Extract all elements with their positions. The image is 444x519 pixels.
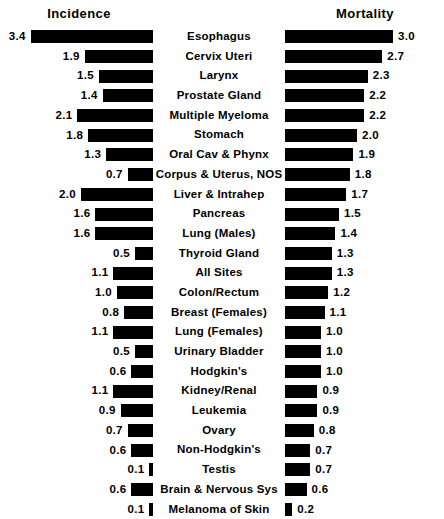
mortality-bar — [285, 168, 350, 181]
mortality-bar — [285, 30, 393, 43]
mortality-cell: 1.2 — [285, 283, 444, 303]
incidence-bar — [121, 404, 153, 417]
chart-header-row: Incidence Mortality — [0, 6, 444, 26]
category-label: Colon/Rectum — [155, 283, 283, 303]
category-label: Lung (Males) — [155, 224, 283, 244]
chart-row: 1.0Colon/Rectum1.2 — [0, 283, 444, 303]
mortality-value-label: 2.2 — [369, 90, 386, 102]
incidence-cell: 0.9 — [0, 401, 153, 421]
category-label: Non-Hodgkin's — [155, 440, 283, 460]
chart-row: 1.1All Sites1.3 — [0, 263, 444, 283]
incidence-value-label: 1.6 — [74, 228, 91, 240]
incidence-value-label: 1.1 — [92, 267, 109, 279]
incidence-cell: 1.8 — [0, 125, 153, 145]
category-label: All Sites — [155, 263, 283, 283]
mortality-cell: 2.2 — [285, 86, 444, 106]
mortality-value-label: 2.3 — [373, 70, 390, 82]
incidence-cell: 1.6 — [0, 224, 153, 244]
chart-row: 1.4Prostate Gland2.2 — [0, 86, 444, 106]
mortality-value-label: 1.0 — [326, 366, 343, 378]
incidence-bar — [149, 463, 153, 476]
mortality-cell: 2.3 — [285, 66, 444, 86]
chart-row: 2.1Multiple Myeloma2.2 — [0, 106, 444, 126]
chart-row: 1.9Cervix Uteri2.7 — [0, 47, 444, 67]
mortality-bar — [285, 306, 325, 319]
incidence-value-label: 1.1 — [92, 385, 109, 397]
category-label: Brain & Nervous Sys — [155, 480, 283, 500]
incidence-cell: 2.0 — [0, 185, 153, 205]
chart-row: 0.7Corpus & Uterus, NOS1.8 — [0, 165, 444, 185]
mortality-value-label: 1.8 — [355, 169, 372, 181]
incidence-bar — [135, 345, 153, 358]
mortality-value-label: 1.4 — [340, 228, 357, 240]
incidence-value-label: 0.6 — [110, 366, 127, 378]
mortality-bar — [285, 129, 357, 142]
incidence-value-label: 0.6 — [110, 484, 127, 496]
mortality-bar — [285, 326, 321, 339]
category-label: Stomach — [155, 125, 283, 145]
mortality-value-label: 0.8 — [319, 425, 336, 437]
mortality-bar — [285, 503, 292, 516]
incidence-value-label: 0.5 — [113, 248, 130, 260]
mortality-bar — [285, 227, 335, 240]
incidence-value-label: 0.9 — [99, 405, 116, 417]
incidence-bar — [88, 129, 153, 142]
mortality-cell: 1.0 — [285, 342, 444, 362]
incidence-value-label: 0.7 — [106, 425, 123, 437]
incidence-bar — [103, 89, 153, 102]
category-label: Oral Cav & Phynx — [155, 145, 283, 165]
incidence-bar — [131, 365, 153, 378]
incidence-cell: 1.0 — [0, 283, 153, 303]
chart-row: 1.3Oral Cav & Phynx1.9 — [0, 145, 444, 165]
chart-row: 3.4Esophagus3.0 — [0, 27, 444, 47]
incidence-bar — [95, 208, 153, 221]
incidence-cell: 1.9 — [0, 47, 153, 67]
category-label: Testis — [155, 460, 283, 480]
mortality-bar — [285, 385, 317, 398]
mortality-cell: 3.0 — [285, 27, 444, 47]
incidence-cell: 0.1 — [0, 460, 153, 480]
incidence-column-header: Incidence — [0, 6, 158, 21]
mortality-cell: 1.7 — [285, 185, 444, 205]
mortality-bar — [285, 365, 321, 378]
incidence-value-label: 2.1 — [56, 110, 73, 122]
mortality-cell: 1.5 — [285, 204, 444, 224]
mortality-value-label: 3.0 — [398, 31, 415, 43]
mortality-cell: 1.9 — [285, 145, 444, 165]
category-label: Urinary Bladder — [155, 342, 283, 362]
category-label: Leukemia — [155, 401, 283, 421]
category-label: Multiple Myeloma — [155, 106, 283, 126]
mortality-value-label: 1.2 — [333, 287, 350, 299]
category-label: Breast (Females) — [155, 303, 283, 323]
incidence-cell: 0.5 — [0, 244, 153, 264]
chart-row: 0.8Breast (Females)1.1 — [0, 303, 444, 323]
mortality-cell: 1.0 — [285, 322, 444, 342]
incidence-cell: 1.5 — [0, 66, 153, 86]
incidence-value-label: 0.7 — [106, 169, 123, 181]
chart-row: 0.6Non-Hodgkin's0.7 — [0, 440, 444, 460]
mortality-value-label: 2.2 — [369, 110, 386, 122]
incidence-bar — [95, 227, 153, 240]
incidence-value-label: 1.1 — [92, 326, 109, 338]
mortality-bar — [285, 444, 310, 457]
incidence-bar — [113, 267, 153, 280]
chart-row: 0.6Brain & Nervous Sys0.6 — [0, 480, 444, 500]
incidence-bar — [106, 148, 153, 161]
chart-row: 2.0Liver & Intrahep1.7 — [0, 185, 444, 205]
mortality-cell: 1.0 — [285, 362, 444, 382]
incidence-value-label: 1.4 — [81, 90, 98, 102]
mortality-bar — [285, 404, 317, 417]
incidence-value-label: 3.4 — [9, 31, 26, 43]
mortality-bar — [285, 50, 382, 63]
mortality-value-label: 1.7 — [351, 189, 368, 201]
chart-row: 1.6Pancreas1.5 — [0, 204, 444, 224]
chart-row: 1.1Kidney/Renal0.9 — [0, 381, 444, 401]
chart-row: 0.5Thyroid Gland1.3 — [0, 244, 444, 264]
chart-row: 1.1Lung (Females)1.0 — [0, 322, 444, 342]
mortality-bar — [285, 247, 332, 260]
mortality-bar — [285, 463, 310, 476]
incidence-bar — [77, 109, 153, 122]
mortality-value-label: 2.7 — [387, 51, 404, 63]
mortality-value-label: 2.0 — [362, 130, 379, 142]
